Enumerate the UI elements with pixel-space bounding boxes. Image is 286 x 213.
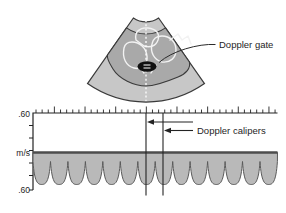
caliper-arrow-head	[147, 119, 154, 125]
y-axis-top-label: .60	[18, 109, 30, 119]
caliper-arrow-head	[164, 128, 171, 134]
doppler-gate-label: Doppler gate	[219, 39, 273, 50]
spectral-trace-plot	[29, 107, 278, 196]
y-axis-bottom-label: .60	[18, 185, 30, 195]
ultrasound-doppler-figure: Doppler gate .60 m/s .60 Doppler caliper…	[0, 0, 286, 213]
doppler-calipers-label: Doppler calipers	[197, 125, 266, 136]
y-axis-unit-label: m/s	[16, 148, 30, 158]
sonogram-sector: Doppler gate	[88, 18, 274, 102]
spectral-waveform-band	[33, 153, 278, 185]
figure-canvas: Doppler gate .60 m/s .60 Doppler caliper…	[0, 0, 286, 213]
doppler-gate-icon	[138, 61, 157, 71]
